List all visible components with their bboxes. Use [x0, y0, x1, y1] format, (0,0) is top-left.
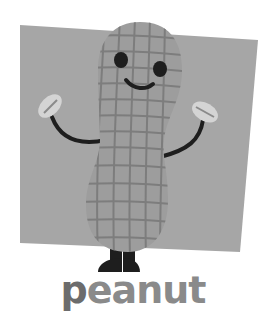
caption-first-letter: p [61, 268, 87, 312]
right-eye [153, 61, 167, 77]
caption-word: peanut [0, 270, 266, 310]
left-eye [114, 52, 128, 68]
peanut-illustration-card: peanut [0, 0, 266, 316]
caption-rest: eanut [87, 268, 206, 312]
